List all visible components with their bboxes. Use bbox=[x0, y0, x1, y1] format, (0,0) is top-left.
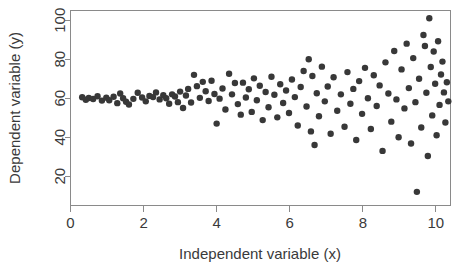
data-point bbox=[229, 91, 235, 97]
data-point bbox=[311, 142, 317, 148]
data-point bbox=[213, 120, 219, 126]
data-point bbox=[430, 48, 436, 54]
data-point bbox=[388, 118, 394, 124]
data-point bbox=[418, 124, 424, 130]
data-point bbox=[254, 97, 260, 103]
data-point bbox=[412, 99, 418, 105]
data-point bbox=[205, 98, 211, 104]
data-point bbox=[423, 90, 429, 96]
y-tick-label: 20 bbox=[51, 168, 68, 185]
data-point bbox=[362, 65, 368, 71]
data-point bbox=[382, 59, 388, 65]
data-point bbox=[226, 70, 232, 76]
data-point bbox=[183, 92, 189, 98]
data-point bbox=[330, 74, 336, 80]
data-point bbox=[322, 98, 328, 104]
data-point bbox=[197, 95, 203, 101]
data-point bbox=[429, 112, 435, 118]
data-point bbox=[297, 84, 303, 90]
data-point bbox=[395, 134, 401, 140]
data-point bbox=[143, 98, 149, 104]
data-point bbox=[341, 124, 347, 130]
data-point bbox=[277, 81, 283, 87]
data-point bbox=[306, 56, 312, 62]
data-point bbox=[373, 103, 379, 109]
data-point bbox=[283, 87, 289, 93]
data-point bbox=[410, 55, 416, 61]
data-point bbox=[280, 100, 286, 106]
data-point bbox=[393, 96, 399, 102]
data-point bbox=[308, 128, 314, 134]
data-point bbox=[344, 69, 350, 75]
data-point bbox=[219, 85, 225, 91]
data-point bbox=[286, 110, 292, 116]
data-points-layer bbox=[79, 15, 452, 195]
data-point bbox=[391, 48, 397, 54]
data-point bbox=[347, 101, 353, 107]
data-point bbox=[327, 131, 333, 137]
data-point bbox=[442, 119, 448, 125]
data-point bbox=[208, 78, 214, 84]
y-axis-title: Dependent variable (y) bbox=[6, 32, 23, 184]
data-point bbox=[259, 117, 265, 123]
data-point bbox=[243, 94, 249, 100]
data-point bbox=[295, 122, 301, 128]
data-point bbox=[426, 15, 432, 21]
data-point bbox=[163, 95, 169, 101]
plot-canvas: 20406080100 0246810 Independent variable… bbox=[0, 0, 467, 270]
data-point bbox=[188, 99, 194, 105]
data-point bbox=[353, 137, 359, 143]
data-point bbox=[350, 86, 356, 92]
data-point bbox=[325, 83, 331, 89]
data-point bbox=[433, 132, 439, 138]
data-point bbox=[180, 105, 186, 111]
data-point bbox=[175, 99, 181, 105]
y-tick-label: 80 bbox=[51, 51, 68, 68]
data-point bbox=[408, 140, 414, 146]
x-tick-label: 4 bbox=[212, 214, 220, 231]
data-point bbox=[406, 85, 412, 91]
data-point bbox=[185, 86, 191, 92]
x-tick-label: 2 bbox=[139, 214, 147, 231]
data-point bbox=[249, 109, 255, 115]
data-point bbox=[428, 64, 434, 70]
data-point bbox=[238, 111, 244, 117]
data-point bbox=[309, 73, 315, 79]
data-point bbox=[268, 74, 274, 80]
data-point bbox=[166, 101, 172, 107]
data-point bbox=[422, 43, 428, 49]
data-point bbox=[368, 126, 374, 132]
data-point bbox=[126, 101, 132, 107]
data-point bbox=[401, 105, 407, 111]
data-point bbox=[300, 68, 306, 74]
y-axis-ticks: 20406080100 bbox=[51, 8, 71, 185]
data-point bbox=[289, 76, 295, 82]
data-point bbox=[135, 90, 141, 96]
data-point bbox=[439, 58, 445, 64]
data-point bbox=[432, 81, 438, 87]
data-point bbox=[316, 113, 322, 119]
data-point bbox=[376, 82, 382, 88]
plot-frame bbox=[71, 11, 451, 206]
data-point bbox=[435, 38, 441, 44]
data-point bbox=[420, 32, 426, 38]
x-axis-ticks: 0246810 bbox=[66, 206, 444, 231]
data-point bbox=[356, 78, 362, 84]
y-tick-label: 60 bbox=[51, 90, 68, 107]
data-point bbox=[202, 88, 208, 94]
data-point bbox=[441, 89, 447, 95]
y-tick-label: 40 bbox=[51, 129, 68, 146]
data-point bbox=[194, 83, 200, 89]
data-point bbox=[292, 94, 298, 100]
data-point bbox=[172, 93, 178, 99]
data-point bbox=[416, 76, 422, 82]
data-point bbox=[240, 79, 246, 85]
data-point bbox=[200, 79, 206, 85]
scatter-plot-figure: 20406080100 0246810 Independent variable… bbox=[0, 0, 467, 270]
data-point bbox=[177, 88, 183, 94]
y-tick-label: 100 bbox=[51, 8, 68, 33]
data-point bbox=[110, 93, 116, 99]
x-tick-label: 8 bbox=[359, 214, 367, 231]
data-point bbox=[257, 83, 263, 89]
x-tick-label: 0 bbox=[66, 214, 74, 231]
